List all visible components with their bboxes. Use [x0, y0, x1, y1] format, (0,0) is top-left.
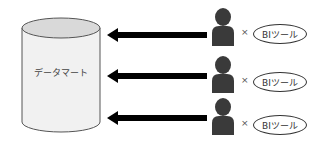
person-icon — [212, 56, 234, 93]
arrow-icon — [107, 69, 207, 83]
bi-tool-bubble: BIツール — [253, 72, 307, 92]
arrow-icon — [107, 111, 207, 125]
person-icon — [212, 98, 234, 135]
times-symbol: × — [241, 27, 249, 37]
datamart-label: データマート — [22, 66, 100, 79]
arrow-icon — [107, 28, 207, 42]
times-symbol: × — [241, 118, 249, 128]
times-symbol: × — [241, 75, 249, 85]
bi-tool-bubble: BIツール — [253, 24, 307, 44]
person-icon — [212, 8, 234, 46]
bi-tool-bubble: BIツール — [253, 115, 307, 135]
